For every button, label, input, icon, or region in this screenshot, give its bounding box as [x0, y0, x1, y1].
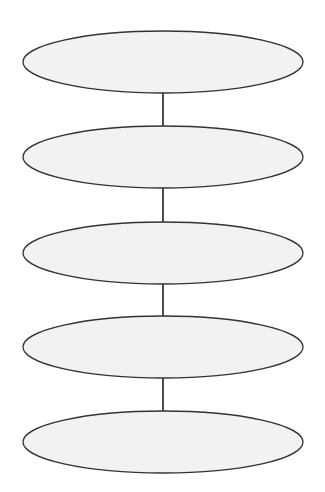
ellipse-node-5 [23, 411, 303, 473]
ellipse-node-2 [23, 126, 303, 188]
ellipse-node-1 [23, 31, 303, 93]
ellipse-shape [23, 316, 303, 378]
ellipse-shape [23, 411, 303, 473]
diagram-canvas [0, 0, 325, 492]
ellipse-shape [23, 222, 303, 284]
vertical-chain-diagram [0, 0, 325, 492]
ellipse-node-4 [23, 316, 303, 378]
ellipse-node-3 [23, 222, 303, 284]
ellipse-shape [23, 31, 303, 93]
ellipse-shape [23, 126, 303, 188]
